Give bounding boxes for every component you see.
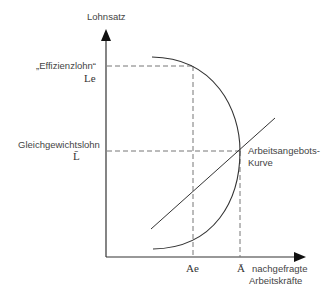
ae-label: Ae — [186, 262, 199, 274]
x-axis-label-line2: Arbeitskräfte — [249, 275, 302, 287]
equilibrium-wage-symbol: L̄ — [73, 150, 80, 162]
efficiency-wage-label: „Effizienzlohn“ — [36, 60, 96, 72]
a-bar-label: Ā — [237, 262, 245, 274]
supply-curve-label-line2: Kurve — [248, 157, 273, 169]
x-axis-label-line1: nachgefragte — [252, 263, 307, 275]
x-axis-arrow-icon — [294, 252, 306, 262]
y-axis-label: Lohnsatz — [87, 11, 126, 23]
supply-curve-label-line1: Arbeitsangebots- — [248, 145, 320, 157]
efficiency-wage-symbol: Le — [84, 72, 96, 84]
equilibrium-wage-label: Gleichgewichtslohn — [18, 139, 100, 151]
supply-curve — [151, 118, 275, 229]
y-axis-arrow-icon — [101, 29, 111, 41]
demand-arc — [152, 57, 240, 249]
